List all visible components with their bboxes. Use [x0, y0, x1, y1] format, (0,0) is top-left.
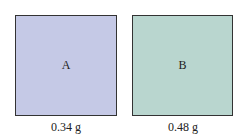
sample-b-label: B [178, 58, 186, 73]
sample-b-box: B [132, 15, 233, 116]
sample-b-mass: 0.48 g [132, 120, 234, 135]
sample-a-mass: 0.34 g [15, 120, 117, 135]
sample-a-box: A [15, 15, 117, 116]
sample-a-label: A [62, 58, 71, 73]
